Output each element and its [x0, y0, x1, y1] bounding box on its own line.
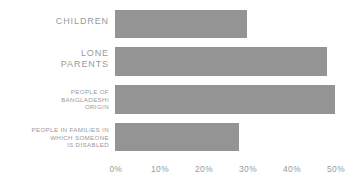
x-tick-30: 30% [239, 164, 257, 174]
category-label-bangladeshi-origin: PEOPLE OF BANGLADESHI ORIGIN [0, 88, 109, 111]
category-label-disabled-families: PEOPLE IN FAMILIES IN WHICH SOMEONE IS D… [0, 126, 109, 149]
bar-row: CHILDREN [0, 10, 357, 38]
bar-lone-parents [115, 47, 327, 76]
category-label-children: CHILDREN [0, 16, 109, 27]
bar-chart: CHILDREN LONE PARENTS PEOPLE OF BANGLADE… [0, 0, 357, 188]
x-tick-0: 0% [110, 164, 123, 174]
x-axis: 0% 10% 20% 30% 40% 50% [0, 160, 357, 188]
x-tick-50: 50% [327, 164, 345, 174]
bar-row: PEOPLE OF BANGLADESHI ORIGIN [0, 85, 357, 114]
bar-row: LONE PARENTS [0, 47, 357, 76]
category-label-lone-parents: LONE PARENTS [0, 48, 109, 70]
bar-children [115, 10, 247, 38]
bar-row: PEOPLE IN FAMILIES IN WHICH SOMEONE IS D… [0, 123, 357, 151]
x-tick-10: 10% [151, 164, 169, 174]
bar-bangladeshi-origin [115, 85, 335, 114]
x-tick-20: 20% [195, 164, 213, 174]
plot-area: CHILDREN LONE PARENTS PEOPLE OF BANGLADE… [0, 0, 357, 160]
x-tick-40: 40% [283, 164, 301, 174]
bar-disabled-families [115, 123, 239, 151]
